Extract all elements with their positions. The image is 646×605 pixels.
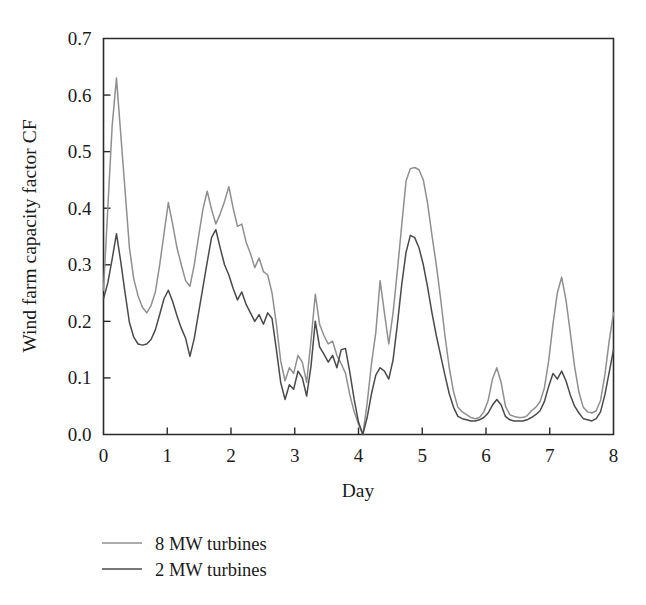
chart-canvas: 0.00.10.20.30.40.50.60.7 012345678 Day W…	[0, 0, 646, 605]
data-series-group	[104, 78, 614, 434]
x-tick-label: 2	[226, 445, 236, 466]
x-tick-label: 8	[609, 445, 619, 466]
x-axis-title: Day	[342, 480, 375, 501]
x-axis-ticks	[167, 428, 550, 435]
series-line-1	[104, 78, 614, 434]
x-tick-label: 6	[481, 445, 491, 466]
y-tick-label: 0.6	[68, 85, 92, 106]
chart-figure: 0.00.10.20.30.40.50.60.7 012345678 Day W…	[0, 0, 646, 605]
x-tick-label: 4	[354, 445, 364, 466]
x-axis-tick-labels: 012345678	[99, 445, 619, 466]
y-axis-tick-labels: 0.00.10.20.30.40.50.60.7	[68, 28, 92, 445]
y-tick-label: 0.5	[68, 141, 92, 162]
y-tick-label: 0.4	[68, 198, 92, 219]
y-tick-label: 0.3	[68, 254, 92, 275]
y-tick-label: 0.0	[68, 424, 92, 445]
chart-legend: 8 MW turbines2 MW turbines	[102, 534, 267, 580]
axis-frame-path	[104, 39, 614, 435]
legend-label-1: 8 MW turbines	[155, 534, 267, 554]
x-tick-label: 7	[545, 445, 555, 466]
y-tick-label: 0.2	[68, 311, 92, 332]
y-axis-title: Wind farm capacity factor CF	[19, 119, 40, 352]
plot-frame	[104, 39, 614, 435]
x-tick-label: 1	[163, 445, 173, 466]
x-tick-label: 3	[290, 445, 300, 466]
y-tick-label: 0.7	[68, 28, 92, 49]
y-tick-label: 0.1	[68, 367, 92, 388]
legend-label-2: 2 MW turbines	[155, 560, 267, 580]
x-tick-label: 5	[418, 445, 428, 466]
x-tick-label: 0	[99, 445, 109, 466]
